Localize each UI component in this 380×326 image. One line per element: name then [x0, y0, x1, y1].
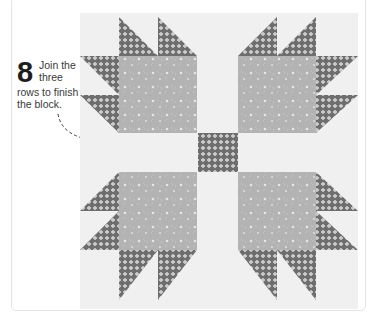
bears-paw-quilt-block: [80, 13, 358, 309]
center-square: [198, 133, 238, 172]
